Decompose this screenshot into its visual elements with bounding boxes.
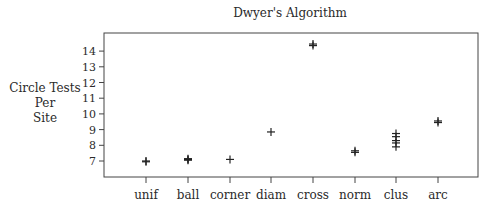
y-tick-label: 9 bbox=[89, 124, 96, 137]
point-marker-corner bbox=[226, 155, 234, 163]
point-marker-norm bbox=[351, 147, 359, 155]
y-tick-label: 13 bbox=[82, 61, 96, 74]
y-tick-label: 14 bbox=[82, 45, 96, 58]
x-tick-label-cross: cross bbox=[297, 188, 329, 202]
x-tick-label-arc: arc bbox=[428, 188, 448, 202]
y-tick-label: 12 bbox=[82, 77, 96, 90]
y-tick-label: 11 bbox=[82, 92, 96, 105]
point-marker-diam bbox=[267, 128, 275, 136]
x-tick-label-corner: corner bbox=[210, 188, 251, 202]
point-marker-ball bbox=[184, 155, 192, 163]
x-tick-label-ball: ball bbox=[177, 188, 200, 202]
chart: Dwyer's Algorithm Circle TestsPerSite 78… bbox=[0, 0, 492, 210]
x-tick-label-norm: norm bbox=[339, 188, 372, 202]
y-tick-label: 7 bbox=[89, 155, 96, 168]
x-tick-label-clus: clus bbox=[384, 188, 408, 202]
point-marker-arc bbox=[434, 117, 442, 125]
y-tick-label: 8 bbox=[89, 139, 96, 152]
y-axis-label-line: Per bbox=[35, 96, 56, 110]
y-axis: 7891011121314 bbox=[82, 45, 104, 168]
x-tick-label-unif: unif bbox=[134, 188, 159, 202]
point-marker-cross bbox=[309, 40, 317, 48]
y-tick-label: 10 bbox=[82, 108, 96, 121]
y-axis-label-line: Circle Tests bbox=[9, 81, 81, 95]
plot-frame bbox=[104, 33, 478, 177]
chart-title: Dwyer's Algorithm bbox=[233, 6, 347, 20]
y-axis-label-line: Site bbox=[33, 111, 57, 125]
data-points bbox=[142, 40, 442, 166]
x-tick-label-diam: diam bbox=[256, 188, 287, 202]
point-marker-unif bbox=[142, 157, 150, 165]
y-axis-label: Circle TestsPerSite bbox=[9, 81, 81, 125]
x-axis: unifballcornerdiamcrossnormclusarc bbox=[134, 177, 448, 202]
